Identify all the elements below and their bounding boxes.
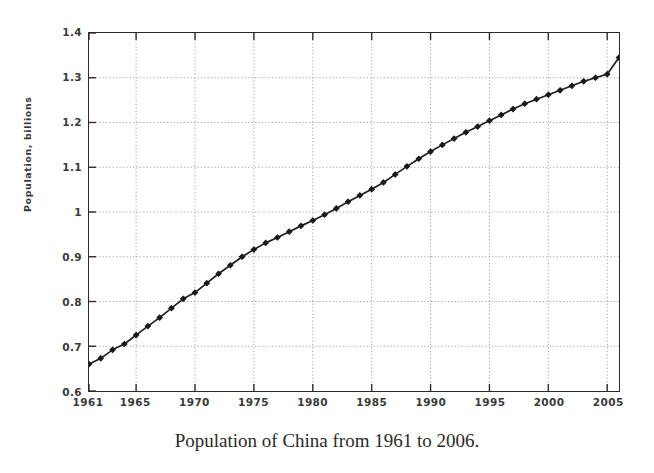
y-tick-label: 1: [74, 206, 82, 218]
y-tick-label: 0.8: [62, 296, 82, 308]
y-tick-label: 1.2: [62, 116, 82, 128]
plot-area: [88, 32, 620, 392]
x-tick-label: 1961: [73, 396, 104, 408]
x-tick-label: 1995: [475, 396, 506, 408]
x-tick-label: 1970: [179, 396, 210, 408]
y-tick-label: 1.4: [62, 26, 82, 38]
y-tick-label: 0.7: [62, 341, 82, 353]
x-tick-label: 1985: [356, 396, 387, 408]
y-axis-title: Population, billions: [22, 97, 33, 213]
y-axis-tick-labels: 1.41.31.21.110.90.80.70.6: [40, 32, 82, 392]
data-series-line: [89, 33, 619, 391]
figure: Population, billions 1.41.31.21.110.90.8…: [0, 0, 654, 473]
x-tick-label: 2000: [534, 396, 565, 408]
y-tick-label: 1.3: [62, 71, 82, 83]
x-tick-label: 1980: [297, 396, 328, 408]
x-tick-label: 2005: [593, 396, 624, 408]
y-tick-label: 1.1: [62, 161, 82, 173]
x-tick-label: 1990: [415, 396, 446, 408]
y-tick-label: 0.9: [62, 251, 82, 263]
x-axis-tick-labels: 1961196519701975198019851990199520002005: [88, 396, 620, 414]
x-tick-label: 1975: [238, 396, 269, 408]
x-tick-label: 1965: [120, 396, 151, 408]
figure-caption: Population of China from 1961 to 2006.: [0, 430, 654, 452]
